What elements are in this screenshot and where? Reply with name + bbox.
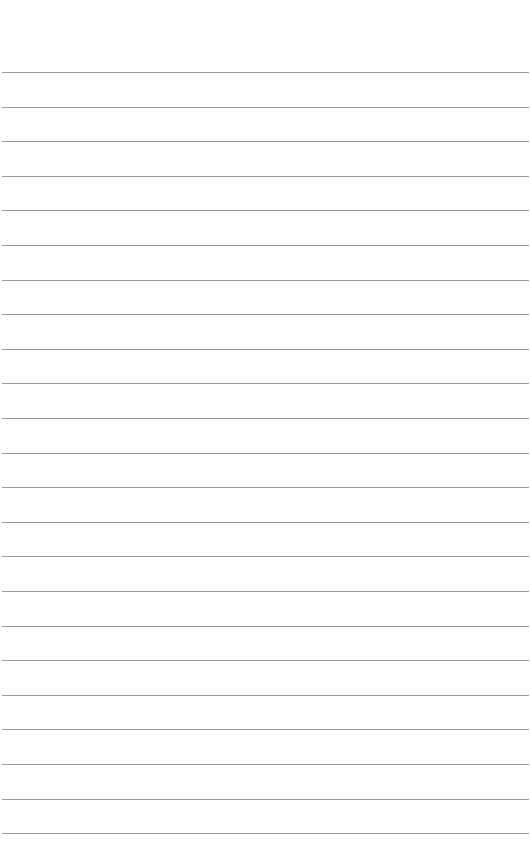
ruled-line [2, 245, 529, 246]
ruled-line [2, 522, 529, 523]
ruled-line [2, 833, 529, 834]
ruled-line [2, 799, 529, 800]
ruled-line [2, 349, 529, 350]
ruled-line [2, 556, 529, 557]
ruled-line [2, 383, 529, 384]
ruled-line [2, 764, 529, 765]
ruled-line [2, 487, 529, 488]
ruled-line [2, 626, 529, 627]
ruled-line [2, 280, 529, 281]
ruled-line [2, 418, 529, 419]
ruled-line [2, 660, 529, 661]
ruled-line [2, 695, 529, 696]
ruled-paper-page [0, 0, 531, 866]
ruled-line [2, 107, 529, 108]
ruled-line [2, 72, 529, 73]
ruled-line [2, 210, 529, 211]
ruled-line [2, 729, 529, 730]
ruled-line [2, 141, 529, 142]
ruled-line [2, 591, 529, 592]
ruled-line [2, 176, 529, 177]
ruled-line [2, 314, 529, 315]
ruled-line [2, 453, 529, 454]
